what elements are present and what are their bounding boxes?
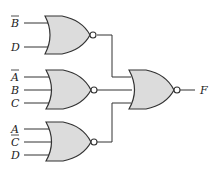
input-label-a-bar: A	[10, 71, 19, 84]
nor-gate-3	[24, 122, 97, 161]
nor-gate-4	[129, 70, 195, 109]
input-label-d: D	[10, 41, 20, 54]
input-label-b: B	[10, 84, 19, 97]
logic-circuit-diagram: B D A B C A C D F	[0, 0, 217, 174]
nor-gate-2	[24, 70, 97, 109]
wire-g3-to-g4	[97, 103, 131, 142]
nor-gate-1	[24, 16, 96, 54]
input-label-b-bar: B	[10, 17, 19, 30]
wire-g1-to-g4	[97, 35, 131, 77]
input-label-a: A	[10, 123, 19, 136]
input-label-c: C	[11, 97, 20, 110]
output-label-f: F	[199, 84, 208, 97]
input-label-c-bar: C	[11, 136, 20, 149]
input-label-d2: D	[10, 149, 20, 162]
